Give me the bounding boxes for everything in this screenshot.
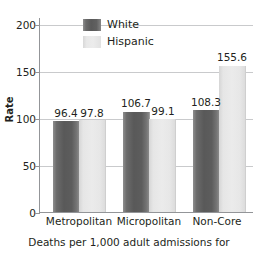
legend: White Hispanic (83, 17, 154, 51)
bar-metropolitan-hispanic[interactable] (79, 120, 106, 212)
x-axis-line (39, 212, 253, 213)
y-tickmark-200 (35, 25, 39, 26)
bar-metropolitan-white[interactable] (53, 121, 80, 212)
legend-label-white: White (107, 19, 139, 30)
bar-value-noncore-hispanic: 155.6 (211, 52, 253, 63)
legend-swatch-hispanic-icon (83, 36, 101, 48)
plot-area: 96.4 97.8 106.7 99.1 108.3 155.6 (39, 25, 253, 213)
bar-micropolitan-white[interactable] (123, 112, 150, 212)
bar-micropolitan-hispanic[interactable] (149, 119, 176, 212)
bar-noncore-hispanic[interactable] (219, 66, 246, 212)
chart-caption: Deaths per 1,000 adult admissions for (0, 236, 258, 248)
bar-value-metropolitan-hispanic: 97.8 (73, 108, 111, 119)
bar-chart: Rate 200 150 100 50 0 96.4 97.8 1 (0, 0, 258, 255)
y-tick-label-200: 200 (8, 20, 36, 31)
bar-noncore-white[interactable] (193, 110, 220, 212)
x-category-label-metropolitan: Metropolitan (39, 216, 119, 227)
y-tickmark-100 (35, 119, 39, 120)
y-tickmark-150 (35, 72, 39, 73)
x-category-label-micropolitan: Micropolitan (109, 216, 189, 227)
bar-value-micropolitan-hispanic: 99.1 (145, 106, 181, 117)
y-axis-tick-labels: 200 150 100 50 0 (0, 0, 36, 255)
legend-swatch-white-icon (83, 19, 101, 31)
y-tick-label-100: 100 (8, 114, 36, 125)
y-tickmark-50 (35, 166, 39, 167)
bar-value-noncore-white: 108.3 (185, 97, 227, 108)
legend-label-hispanic: Hispanic (107, 36, 154, 47)
legend-item-hispanic[interactable]: Hispanic (83, 34, 154, 49)
y-tickmark-0 (35, 213, 39, 214)
y-tick-label-50: 50 (8, 161, 36, 172)
y-tick-label-150: 150 (8, 67, 36, 78)
legend-item-white[interactable]: White (83, 17, 154, 32)
y-tick-label-0: 0 (8, 208, 36, 219)
y-axis-line (39, 18, 40, 214)
x-category-label-noncore: Non-Core (181, 216, 253, 227)
